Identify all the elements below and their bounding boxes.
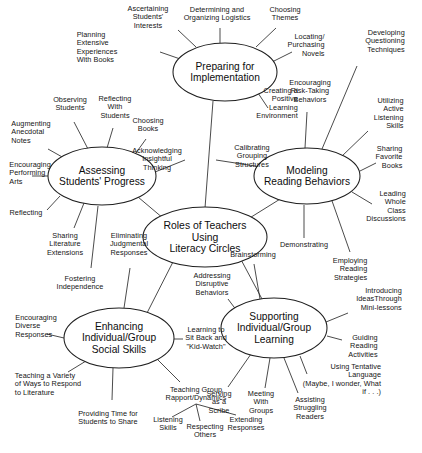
node-center xyxy=(143,207,267,267)
node-modeling xyxy=(254,148,360,204)
node-ellipses xyxy=(48,43,360,368)
node-assessing xyxy=(48,147,156,205)
node-preparing xyxy=(173,43,277,101)
node-supporting xyxy=(221,298,327,358)
diagram-canvas xyxy=(0,0,422,453)
node-enhancing xyxy=(64,308,174,368)
